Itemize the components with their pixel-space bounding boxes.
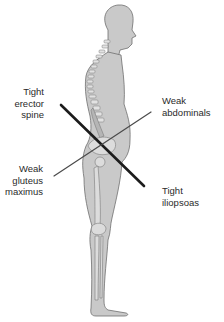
label-line: gluteus — [5, 175, 43, 187]
label-line: spine — [14, 109, 44, 121]
label-line: Tight — [14, 86, 44, 98]
label-line: abdominals — [162, 107, 211, 119]
body-silhouette — [83, 5, 136, 316]
posture-figure — [0, 0, 224, 322]
label-line: Weak — [5, 163, 43, 175]
label-line: Tight — [162, 185, 199, 197]
label-line: erector — [14, 98, 44, 110]
label-line: maximus — [5, 186, 43, 198]
label-weak-gluteus-maximus: Weak gluteus maximus — [5, 163, 43, 198]
label-tight-erector-spine: Tight erector spine — [14, 86, 44, 121]
label-line: iliopsoas — [162, 197, 199, 209]
label-line: Weak — [162, 95, 211, 107]
label-tight-iliopsoas: Tight iliopsoas — [162, 185, 199, 208]
label-weak-abdominals: Weak abdominals — [162, 95, 211, 118]
